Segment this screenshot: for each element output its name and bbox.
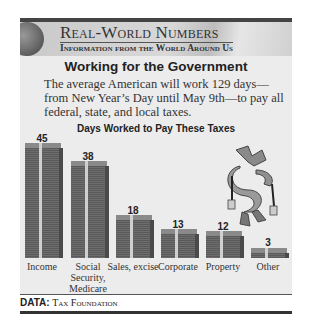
dollar-sign-mascot-icon xyxy=(218,140,288,230)
divider xyxy=(20,294,292,295)
description: The average American will work 129 days—… xyxy=(44,77,284,119)
bar-value-other: 3 xyxy=(246,237,290,248)
bar-other xyxy=(251,251,285,258)
data-label: DATA: xyxy=(20,297,50,308)
data-source: DATA: Tax Foundation xyxy=(20,297,118,308)
bar-corporate xyxy=(161,232,195,258)
globe-icon xyxy=(20,22,46,56)
bar-income xyxy=(25,146,59,258)
banner-subtitle: Information from the World Around Us xyxy=(60,42,233,53)
source-name: Tax Foundation xyxy=(52,297,118,308)
bar-property xyxy=(206,234,240,258)
page-title: Working for the Government xyxy=(20,59,292,74)
bar-sales xyxy=(116,218,150,258)
bar-social-security xyxy=(71,164,105,258)
bottom-rule xyxy=(20,311,292,314)
header-banner: Real-World Numbers Information from the … xyxy=(20,18,292,56)
banner-title: Real-World Numbers xyxy=(60,23,219,43)
category-other: Other xyxy=(240,261,296,272)
